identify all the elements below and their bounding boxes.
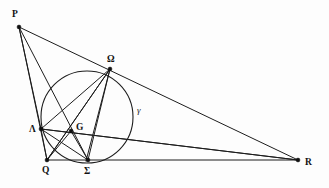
geometry-canvas: γ PΩΛGQΣR: [0, 0, 329, 188]
segment-Omega-G-Sigma: [86, 69, 110, 161]
point-label-g: G: [76, 122, 84, 132]
point-label-q: Q: [42, 165, 49, 175]
vertex-dot-q: [45, 158, 49, 162]
point-label-r: R: [305, 157, 312, 167]
circle-gamma-label: γ: [137, 105, 141, 115]
vertex-dot-p: [17, 25, 21, 29]
segment-Omega-Lambda: [41, 69, 110, 129]
point-labels-layer: PΩΛGQΣR: [12, 9, 312, 176]
vertex-dot-omega: [108, 67, 112, 71]
vertex-dot-r: [296, 158, 300, 162]
segments-layer: [19, 27, 298, 161]
point-label-lambda: Λ: [29, 124, 36, 134]
vertex-dot-g: [69, 129, 73, 133]
geometry-figure: γ PΩΛGQΣR: [0, 0, 329, 188]
point-label-p: P: [12, 9, 18, 19]
segment-P-Sigma: [19, 27, 88, 160]
point-label-sigma: Σ: [84, 166, 90, 176]
point-label-omega: Ω: [107, 54, 115, 64]
vertex-dot-sigma: [86, 158, 90, 162]
segment-P-Lambda: [19, 27, 41, 129]
segment-G-Sigma: [71, 131, 88, 160]
vertex-dot-lambda: [39, 127, 43, 131]
